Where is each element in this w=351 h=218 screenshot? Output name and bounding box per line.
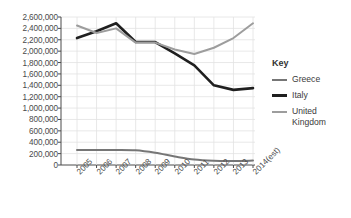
legend-item[interactable]: Greece [272,74,351,85]
legend-item-label: United Kingdom [292,106,351,128]
x-axis-tick-label: 2013 [231,157,250,176]
legend-item[interactable]: Italy [272,90,351,101]
legend-color-swatch [272,79,287,81]
legend-item-label: Greece [292,74,320,85]
x-axis-tick-label: 2006 [95,157,114,176]
x-axis-tick-label: 2010 [173,157,192,176]
x-axis-tick-label: 2011 [192,158,211,177]
x-axis-tick-label: 2007 [114,157,133,176]
line-chart: 2,600,0002,400,0002,200,0002,000,0001,80… [0,0,351,218]
legend-color-swatch [272,94,287,97]
legend-item-label: Italy [292,90,308,101]
x-axis-tick-label: 2008 [134,157,153,176]
legend-item[interactable]: United Kingdom [272,106,351,128]
chart-legend: Key GreeceItalyUnited Kingdom [272,58,351,133]
legend-items: GreeceItalyUnited Kingdom [272,74,351,128]
x-axis-tick-label: 2012 [212,157,231,176]
x-axis-tick-label: 2014(est) [251,146,282,177]
x-axis-tick-label: 2009 [153,157,172,176]
legend-title: Key [272,58,351,68]
legend-color-swatch [272,111,287,113]
x-axis-tick-label: 2005 [75,157,94,176]
